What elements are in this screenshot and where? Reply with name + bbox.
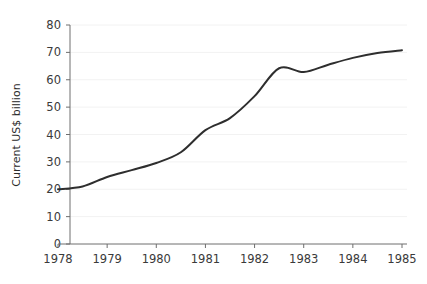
- y-tick-label: 70: [46, 45, 61, 59]
- x-tick-label: 1980: [142, 252, 171, 266]
- y-tick-label: 30: [46, 155, 61, 169]
- x-tick-label: 1982: [240, 252, 269, 266]
- y-tick-label: 80: [46, 18, 61, 32]
- y-tick-label: 40: [46, 128, 61, 142]
- x-tick-label: 1979: [93, 252, 122, 266]
- y-tick-label: 10: [46, 210, 61, 224]
- x-tick-label: 1978: [43, 252, 72, 266]
- x-tick-label: 1981: [191, 252, 220, 266]
- x-tick-label: 1983: [289, 252, 318, 266]
- y-axis-label: Current US$ billion: [10, 83, 23, 186]
- y-tick-label: 60: [46, 73, 61, 87]
- chart-canvas: 01020304050607080 1978197919801981198219…: [0, 0, 427, 284]
- x-tick-label: 1985: [387, 252, 416, 266]
- line-chart: 01020304050607080 1978197919801981198219…: [0, 0, 427, 284]
- y-tick-label: 50: [46, 100, 61, 114]
- x-tick-label: 1984: [338, 252, 367, 266]
- chart-background: [0, 0, 427, 284]
